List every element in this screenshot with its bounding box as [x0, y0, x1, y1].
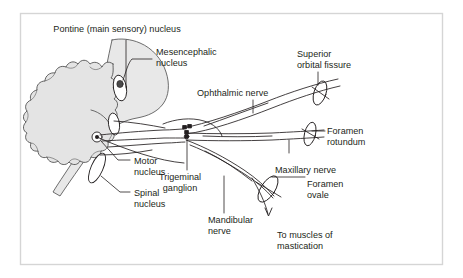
label-mesencephalic-nucleus-line2: nucleus	[156, 58, 188, 68]
label-mesencephalic-nucleus-line1: Mesencephalic	[156, 47, 217, 57]
label-trigeminal-ganglion-line2: ganglion	[163, 183, 197, 193]
label-trigeminal-ganglion-line1: Trigeminal	[159, 172, 201, 182]
label-foramen-ovale-line1: Foramen	[307, 179, 343, 189]
label-foramen-ovale-line2: ovale	[307, 190, 329, 200]
label-mandibular-nerve-line2: nerve	[208, 226, 231, 236]
mesencephalic-nucleus-core	[117, 80, 123, 87]
label-ophthalmic-nerve: Ophthalmic nerve	[197, 88, 268, 98]
label-maxillary-nerve: Maxillary nerve	[275, 165, 336, 175]
maxillary-nerve	[186, 130, 324, 141]
label-foramen-rotundum-line2: rotundum	[327, 137, 365, 147]
label-foramen-rotundum-line1: Foramen	[327, 126, 363, 136]
leader-spinal-nucleus	[101, 176, 130, 192]
foramen-rotundum	[302, 121, 319, 147]
label-superior-orbital-fissure-line2: orbital fissure	[297, 60, 351, 70]
trigeminal-nerve-diagram: Pontine (main sensory) nucleus Mesenceph…	[0, 0, 463, 278]
label-superior-orbital-fissure-line1: Superior	[297, 49, 331, 59]
label-spinal-nucleus-line1: Spinal	[134, 188, 159, 198]
label-to-muscles-line2: mastication	[277, 241, 323, 251]
label-motor-nucleus-line1: Motor	[134, 156, 157, 166]
trigeminal-ganglion	[183, 125, 191, 139]
label-mandibular-nerve-line1: Mandibular	[208, 215, 253, 225]
diagram-canvas: Pontine (main sensory) nucleus Mesenceph…	[0, 0, 463, 278]
label-pontine-nucleus: Pontine (main sensory) nucleus	[53, 24, 181, 34]
mandibular-nerve	[186, 140, 274, 198]
label-spinal-nucleus-line2: nucleus	[134, 199, 166, 209]
label-to-muscles-line1: To muscles of	[277, 230, 333, 240]
